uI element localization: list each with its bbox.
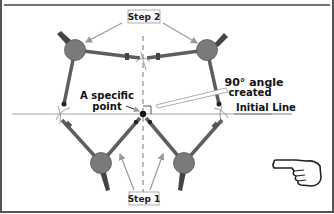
step1-label: Step 1	[128, 194, 161, 204]
compass-pivot	[174, 153, 195, 174]
compass-pivot	[65, 40, 86, 61]
compass-bottom-left	[62, 118, 140, 191]
step2-arrow-right	[163, 23, 197, 43]
specific-point-dot	[140, 111, 146, 117]
pointing-hand-icon	[273, 160, 321, 186]
step2-label: Step 2	[128, 12, 161, 22]
compass-bottom-right	[146, 118, 222, 191]
compass-pivot	[197, 40, 218, 61]
specific-point-label-line1: A specific	[80, 90, 134, 101]
compass-pivot	[91, 153, 112, 174]
compass-top-right	[147, 33, 228, 107]
initial-line-label: Initial Line	[236, 102, 296, 113]
compass-construction-diagram: Step 2 Step 1 A specific point 90° angle…	[0, 0, 334, 214]
step1-arrow-left	[120, 154, 134, 190]
angle-label-line2: created	[228, 87, 271, 98]
specific-point-label-line2: point	[92, 101, 122, 112]
step2-arrow-left	[86, 23, 122, 42]
step1-arrow-right	[150, 154, 163, 190]
specific-point-arrow	[126, 106, 139, 111]
